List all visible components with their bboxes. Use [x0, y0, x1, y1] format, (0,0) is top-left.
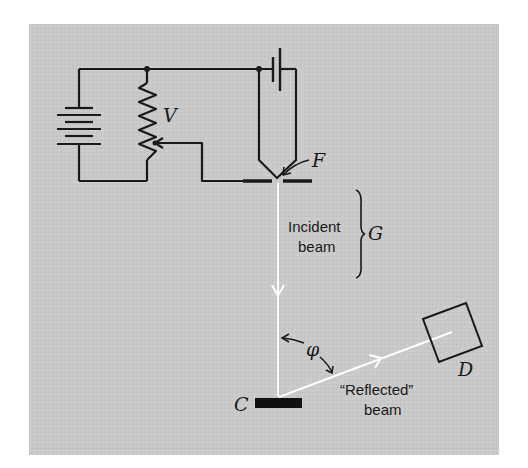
junction-dot-right [256, 66, 262, 72]
filament-label: F [311, 149, 326, 171]
detector-label: D [457, 358, 473, 380]
incident-label-line1: Incident [288, 218, 341, 235]
crystal-label: C [234, 393, 249, 415]
crystal-target [255, 398, 302, 408]
voltage-label: V [163, 104, 179, 126]
davisson-germer-diagram: V F Incident beam G φ C D “Reflected” be… [0, 0, 528, 468]
diagram-panel [29, 24, 499, 455]
gun-label: G [368, 222, 383, 244]
angle-label: φ [306, 338, 320, 360]
reflected-label-line2: beam [364, 401, 402, 418]
junction-dot-left [144, 66, 150, 72]
wiper-dot [153, 141, 158, 146]
incident-label-line2: beam [298, 238, 336, 255]
reflected-label-line1: “Reflected” [340, 381, 413, 398]
